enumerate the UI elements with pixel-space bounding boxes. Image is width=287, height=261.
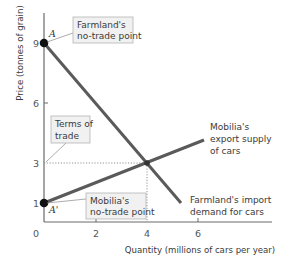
svg-text:trade: trade (55, 131, 79, 141)
x-tick-label-4: 4 (144, 228, 150, 239)
equilibrium-point (144, 160, 150, 166)
svg-text:no-trade point: no-trade point (77, 31, 142, 41)
terms-leader-line (46, 143, 66, 162)
svg-text:Farmland's: Farmland's (77, 20, 126, 30)
svg-text:demand for cars: demand for cars (190, 207, 264, 217)
y-tick-label-6: 6 (33, 98, 39, 109)
y-tick-label-1: 1 (33, 198, 39, 209)
y-tick-label-3: 3 (33, 158, 39, 169)
x-tick-label-6: 6 (195, 228, 201, 239)
x-tick-label-2: 2 (93, 228, 99, 239)
point-a (40, 39, 49, 48)
farmland-no-trade-annotation: Farmland's no-trade point (73, 17, 142, 43)
point-a-label: A (48, 28, 56, 39)
y-tick-label-9: 9 (33, 38, 39, 49)
point-a-prime-label: A' (48, 204, 58, 215)
origin-label: 0 (33, 228, 39, 239)
svg-text:Mobilia's: Mobilia's (210, 122, 249, 132)
terms-of-trade-annotation: Terms of trade (51, 116, 94, 143)
demand-curve-label: Farmland's import demand for cars (190, 195, 272, 217)
svg-text:of cars: of cars (210, 146, 241, 156)
mobilia-no-trade-annotation: Mobilia's no-trade point (86, 193, 155, 219)
x-axis-title: Quantity (millions of cars per year) (125, 245, 275, 255)
supply-curve-label: Mobilia's export supply of cars (210, 122, 272, 156)
svg-text:Mobilia's: Mobilia's (90, 196, 129, 206)
y-axis-title: Price (tonnes of grain) (15, 5, 25, 101)
svg-text:Farmland's import: Farmland's import (190, 195, 272, 205)
svg-text:no-trade point: no-trade point (90, 207, 155, 217)
chart: Price (tonnes of grain) 9 6 3 1 0 2 4 6 … (0, 0, 287, 261)
svg-text:export supply: export supply (210, 134, 272, 144)
svg-text:Terms of: Terms of (54, 119, 94, 129)
